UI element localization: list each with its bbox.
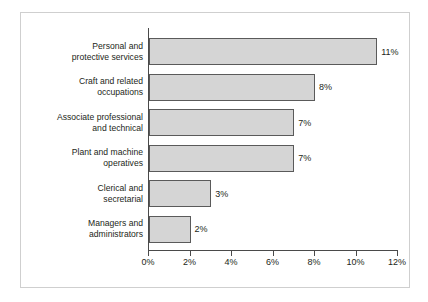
x-axis-tick-label: 0% [133,257,163,267]
x-axis-tick [314,251,315,256]
x-axis-tick [190,251,191,256]
category-label-line1: Craft and related [14,76,143,87]
x-axis-tick-label: 2% [175,257,205,267]
bar-row: Plant and machineoperatives7% [0,145,428,172]
category-label: Managers andadministrators [14,218,148,240]
category-label-line2: occupations [14,87,143,98]
bar-row: Craft and relatedoccupations8% [0,74,428,101]
category-label-line2: protective services [14,52,143,63]
category-label: Personal andprotective services [14,41,148,63]
x-axis-tick-label: 8% [299,257,329,267]
bar-value-label: 7% [294,153,311,163]
category-label-line1: Plant and machine [14,147,143,158]
category-label: Associate professionaland technical [14,112,148,134]
x-axis-tick [356,251,357,256]
bar-value-label: 11% [377,47,398,57]
bar-row: Personal andprotective services11% [0,38,428,65]
bar[interactable] [149,180,211,207]
bar[interactable] [149,145,294,172]
category-label-line2: secretarial [14,194,143,205]
x-axis-tick-label: 6% [258,257,288,267]
bar-row: Clerical andsecretarial3% [0,180,428,207]
category-label-line1: Managers and [14,218,143,229]
bar-value-label: 8% [315,82,332,92]
category-label-line1: Personal and [14,41,143,52]
category-label-line1: Associate professional [14,112,143,123]
bar-value-label: 2% [191,224,208,234]
x-axis-tick-label: 12% [382,257,412,267]
category-label-line2: and technical [14,123,143,134]
bar-row: Associate professionaland technical7% [0,109,428,136]
category-label: Plant and machineoperatives [14,147,148,169]
category-label-line2: administrators [14,229,143,240]
bar[interactable] [149,38,377,65]
bar-value-label: 3% [211,189,228,199]
bar[interactable] [149,74,315,101]
category-label-line2: operatives [14,158,143,169]
bar-chart: 0%2%4%6%8%10%12% Personal andprotective … [0,0,428,302]
category-label: Clerical andsecretarial [14,183,148,205]
bar[interactable] [149,216,191,243]
category-label: Craft and relatedoccupations [14,76,148,98]
bar-row: Managers andadministrators2% [0,216,428,243]
x-axis-tick-label: 10% [341,257,371,267]
x-axis-tick [231,251,232,256]
bar[interactable] [149,109,294,136]
x-axis-tick-label: 4% [216,257,246,267]
x-axis-tick [273,251,274,256]
category-label-line1: Clerical and [14,183,143,194]
x-axis-tick [148,251,149,256]
x-axis-tick [397,251,398,256]
bar-value-label: 7% [294,118,311,128]
